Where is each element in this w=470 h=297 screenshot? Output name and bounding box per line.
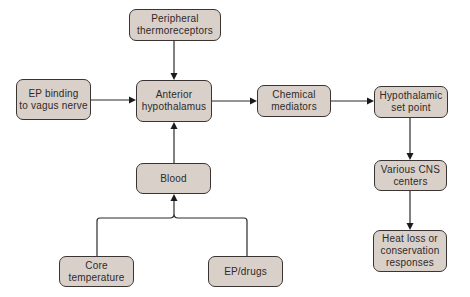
- node-label: Anterior hypothalamus: [142, 89, 207, 113]
- node-label: Blood: [160, 173, 187, 185]
- edge-setpoint-to-cns: [407, 118, 414, 160]
- node-chemical-mediators: Chemical mediators: [257, 85, 331, 117]
- edge-peripheral-to-anterior: [171, 41, 178, 80]
- node-label: Various CNS centers: [381, 164, 440, 188]
- node-label: EP binding to vagus nerve: [19, 88, 87, 112]
- arrowhead-icon: [250, 98, 257, 105]
- node-various-cns-centers: Various CNS centers: [374, 160, 447, 191]
- arrowhead-icon: [129, 97, 136, 104]
- fever-regulation-diagram: Peripheral thermoreceptors EP binding to…: [0, 0, 470, 297]
- node-anterior-hypothalamus: Anterior hypothalamus: [136, 80, 212, 122]
- edge-ep-binding-to-anterior: [91, 97, 136, 104]
- arrowhead-icon: [407, 223, 414, 230]
- node-heat-loss-conservation: Heat loss or conservation responses: [373, 230, 447, 272]
- edge-blood-to-anterior: [171, 122, 178, 163]
- node-label: Hypothalamic set point: [380, 90, 443, 114]
- edge-anterior-to-chemical: [212, 98, 257, 105]
- node-core-temperature: Core temperature: [59, 256, 134, 287]
- arrowhead-icon: [367, 98, 374, 105]
- node-ep-drugs: EP/drugs: [208, 256, 283, 287]
- arrowhead-icon: [171, 122, 178, 129]
- edge-core-and-epdrugs-to-blood: [97, 194, 247, 256]
- edge-cns-to-heatloss: [407, 191, 414, 230]
- arrowhead-icon: [171, 194, 178, 201]
- node-label: Core temperature: [68, 260, 124, 284]
- arrowhead-icon: [407, 153, 414, 160]
- node-label: Heat loss or conservation responses: [380, 233, 439, 269]
- node-label: Peripheral thermoreceptors: [137, 13, 213, 37]
- node-peripheral-thermoreceptors: Peripheral thermoreceptors: [129, 9, 221, 41]
- node-blood: Blood: [136, 163, 211, 194]
- node-label: EP/drugs: [224, 266, 267, 278]
- edge-chemical-to-setpoint: [331, 98, 374, 105]
- node-ep-binding-vagus: EP binding to vagus nerve: [16, 79, 91, 120]
- node-label: Chemical mediators: [271, 89, 317, 113]
- arrowhead-icon: [171, 73, 178, 80]
- node-hypothalamic-set-point: Hypothalamic set point: [374, 86, 448, 118]
